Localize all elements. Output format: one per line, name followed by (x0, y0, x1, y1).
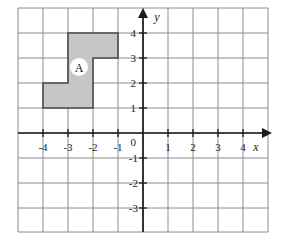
y-tick-label--3: -3 (129, 202, 139, 214)
coordinate-grid-figure: -4 -3 -2 -1 1 2 3 4 4 3 2 1 -1 -2 -3 0 x… (0, 0, 285, 246)
x-tick-label-4: 4 (240, 141, 246, 153)
x-tick-label-3: 3 (215, 141, 221, 153)
y-tick-label--1: -1 (129, 152, 138, 164)
shape-a-badge: A (70, 58, 88, 76)
y-tick-label-1: 1 (131, 102, 137, 114)
y-axis-label: y (153, 10, 160, 24)
x-axis-label: x (252, 140, 259, 154)
x-tick-label--4: -4 (38, 141, 48, 153)
y-tick-label-3: 3 (131, 52, 137, 64)
y-tick-label-4: 4 (131, 27, 137, 39)
x-tick-label--1: -1 (113, 141, 122, 153)
x-tick-label--3: -3 (63, 141, 73, 153)
y-tick-label--2: -2 (129, 177, 138, 189)
x-tick-label--2: -2 (88, 141, 97, 153)
y-tick-label-2: 2 (131, 77, 137, 89)
shape-a-label: A (75, 61, 84, 75)
x-tick-label-1: 1 (165, 141, 171, 153)
origin-label: 0 (131, 136, 137, 148)
x-tick-label-2: 2 (190, 141, 196, 153)
